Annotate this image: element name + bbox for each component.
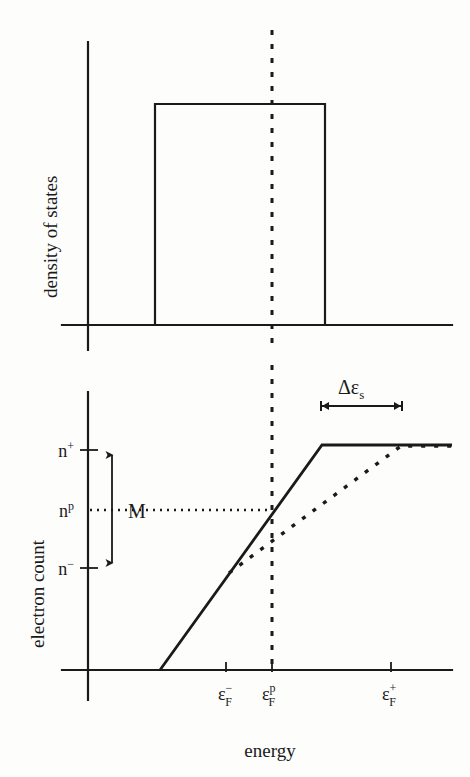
magnetization-label: M — [128, 500, 146, 522]
figure-container: density of states — [0, 0, 470, 777]
x-tick-label-fermi-minus: ε−F — [218, 681, 233, 709]
x-tick-label-fermi-p: εpF — [262, 681, 276, 709]
y-tick-label-n-minus: n− — [58, 557, 74, 579]
bottom-panel-x-axis-title: energy — [244, 740, 296, 761]
majority-spin-count-curve — [160, 445, 452, 670]
y-tick-labels: n+ np n− — [58, 439, 74, 579]
x-tick-labels: ε−F εpF ε+F — [218, 681, 397, 709]
y-tick-label-n-plus: n+ — [58, 439, 74, 461]
bottom-panel-y-axis-title: electron count — [27, 539, 48, 648]
x-tick-label-fermi-plus: ε+F — [382, 681, 397, 709]
density-of-states-rectangle — [155, 104, 325, 325]
top-panel-y-axis-title: density of states — [40, 176, 61, 298]
top-panel: density of states — [40, 30, 452, 350]
y-tick-label-n-p: np — [59, 499, 74, 521]
physics-figure-svg: density of states — [0, 0, 470, 777]
annotation-labels: M Δεs — [128, 376, 364, 522]
exchange-splitting-label: Δεs — [338, 376, 364, 402]
minority-spin-count-curve — [229, 446, 452, 573]
